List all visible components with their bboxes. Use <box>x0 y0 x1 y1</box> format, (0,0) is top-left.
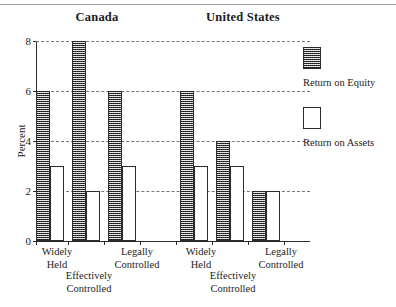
bar-us-legally-controlled-roa <box>266 191 280 241</box>
x-tick-0 <box>36 241 37 245</box>
y-tick-label-6: 6 <box>5 85 31 97</box>
bar-canada-widely-held-roa <box>50 166 64 241</box>
x-label-line-1: Widely <box>42 246 73 257</box>
x-tick-6 <box>248 241 249 245</box>
bar-canada-effectively-controlled-roe <box>72 41 86 241</box>
bar-us-widely-held-roe <box>180 91 194 241</box>
x-label-canada-effectively-controlled: Effectively Controlled <box>53 270 125 295</box>
x-label-canada-legally-controlled: Legally Controlled <box>101 246 173 271</box>
chart-figure: Canada United States Percent 0 2 4 6 8 <box>0 0 396 307</box>
x-tick-2 <box>104 241 105 245</box>
y-tick-label-2: 2 <box>5 185 31 197</box>
bar-us-effectively-controlled-roe <box>216 141 230 241</box>
bar-us-legally-controlled-roe <box>252 191 266 241</box>
bar-canada-legally-controlled-roa <box>122 166 136 241</box>
x-label-us-effectively-controlled: Effectively Controlled <box>197 270 269 295</box>
x-label-line-2: Held <box>47 259 67 270</box>
x-label-line-2: Controlled <box>211 283 256 294</box>
empty-square-icon <box>303 107 321 129</box>
x-label-line-1: Legally <box>121 246 153 257</box>
x-label-line-1: Widely <box>186 246 217 257</box>
y-tick-label-4: 4 <box>5 135 31 147</box>
bar-canada-widely-held-roe <box>36 91 50 241</box>
x-label-line-2: Controlled <box>259 259 304 270</box>
plot-area: Percent 0 2 4 6 8 <box>36 41 310 241</box>
legend-label-return-on-assets: Return on Assets <box>303 137 374 148</box>
x-label-line-1: Effectively <box>210 270 256 281</box>
x-label-line-1: Legally <box>265 246 297 257</box>
y-tick-label-8: 8 <box>5 35 31 47</box>
x-label-canada-widely-held: Widely Held <box>27 246 87 271</box>
page-rule-divider <box>0 4 396 5</box>
x-label-line-1: Effectively <box>66 270 112 281</box>
x-tick-5 <box>212 241 213 245</box>
bar-canada-legally-controlled-roe <box>108 91 122 241</box>
x-label-line-2: Controlled <box>67 283 112 294</box>
x-label-line-2: Held <box>191 259 211 270</box>
x-tick-7 <box>284 241 285 245</box>
x-label-us-legally-controlled: Legally Controlled <box>245 246 317 271</box>
hatched-square-icon <box>303 47 321 69</box>
x-tick-3 <box>140 241 141 245</box>
bar-canada-effectively-controlled-roa <box>86 191 100 241</box>
y-tick-mark-8 <box>33 41 36 42</box>
bar-us-effectively-controlled-roa <box>230 166 244 241</box>
group-title-united-states: United States <box>178 10 308 25</box>
x-label-us-widely-held: Widely Held <box>171 246 231 271</box>
x-tick-1 <box>68 241 69 245</box>
x-tick-4 <box>176 241 177 245</box>
group-title-canada: Canada <box>52 10 142 25</box>
x-label-line-2: Controlled <box>115 259 160 270</box>
bar-us-widely-held-roa <box>194 166 208 241</box>
x-axis-line <box>36 241 310 242</box>
legend-label-return-on-equity: Return on Equity <box>303 77 375 88</box>
